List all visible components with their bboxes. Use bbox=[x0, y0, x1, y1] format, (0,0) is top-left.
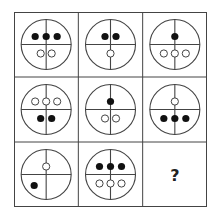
puzzle-cell-r0c1 bbox=[86, 20, 136, 70]
hollow-dot bbox=[107, 50, 114, 57]
filled-dot bbox=[171, 115, 178, 122]
hollow-dot bbox=[182, 50, 189, 57]
hollow-dot bbox=[171, 50, 178, 57]
filled-dot bbox=[160, 115, 167, 122]
filled-dot bbox=[182, 115, 189, 122]
puzzle-grid: ? bbox=[14, 12, 207, 207]
filled-dot bbox=[32, 33, 39, 40]
hollow-dot bbox=[107, 180, 114, 187]
filled-dot bbox=[43, 33, 50, 40]
filled-dot bbox=[107, 163, 114, 170]
filled-dot bbox=[96, 163, 103, 170]
filled-dot bbox=[118, 163, 125, 170]
filled-dot bbox=[54, 33, 61, 40]
filled-dot bbox=[31, 182, 38, 189]
hollow-dot bbox=[32, 98, 39, 105]
hollow-dot bbox=[54, 98, 61, 105]
filled-dot bbox=[171, 33, 178, 40]
filled-dot bbox=[37, 115, 44, 122]
hollow-dot bbox=[112, 115, 119, 122]
hollow-dot bbox=[160, 50, 167, 57]
puzzle-canvas: ? bbox=[14, 12, 207, 207]
filled-dot bbox=[112, 33, 119, 40]
puzzle-cell-r0c2 bbox=[150, 20, 200, 70]
puzzle-cell-r1c0 bbox=[21, 85, 71, 135]
puzzle-cell-r1c2 bbox=[150, 85, 200, 135]
hollow-dot bbox=[118, 180, 125, 187]
filled-dot bbox=[48, 115, 55, 122]
puzzle-cell-r2c1 bbox=[86, 150, 136, 200]
hollow-dot bbox=[48, 50, 55, 57]
question-mark: ? bbox=[170, 166, 179, 185]
hollow-dot bbox=[43, 98, 50, 105]
puzzle-cell-r2c2[interactable]: ? bbox=[170, 166, 179, 185]
puzzle-cell-r2c0 bbox=[21, 150, 71, 200]
filled-dot bbox=[107, 98, 114, 105]
hollow-dot bbox=[96, 180, 103, 187]
filled-dot bbox=[101, 33, 108, 40]
hollow-dot bbox=[171, 98, 178, 105]
puzzle-cell-r0c0 bbox=[21, 20, 71, 70]
hollow-dot bbox=[101, 115, 108, 122]
hollow-dot bbox=[43, 163, 50, 170]
puzzle-cell-r1c1 bbox=[86, 85, 136, 135]
hollow-dot bbox=[37, 50, 44, 57]
